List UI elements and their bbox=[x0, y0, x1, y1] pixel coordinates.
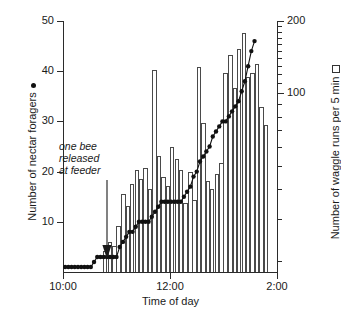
annotation-line-2: released bbox=[59, 152, 133, 164]
data-point-marker bbox=[89, 265, 93, 269]
annotation-line-3: at feeder bbox=[59, 164, 133, 176]
data-point-marker bbox=[217, 124, 221, 128]
data-point-marker bbox=[204, 149, 208, 153]
data-point-marker bbox=[179, 200, 183, 204]
y-axis-right-minor-tick bbox=[278, 26, 282, 27]
data-point-marker bbox=[211, 134, 215, 138]
y-axis-right-minor-tick bbox=[278, 117, 282, 118]
data-point-marker bbox=[243, 79, 247, 83]
data-point-marker bbox=[114, 255, 118, 259]
data-point-marker bbox=[195, 169, 199, 173]
y-axis-right-minor-tick bbox=[278, 32, 282, 33]
data-point-marker bbox=[246, 64, 250, 68]
data-point-marker bbox=[188, 184, 192, 188]
data-point-marker bbox=[230, 109, 234, 113]
x-axis-tick bbox=[63, 273, 64, 279]
data-point-marker bbox=[227, 114, 231, 118]
y-axis-right-title-text: Number of waggle runs per 5 min bbox=[329, 77, 341, 240]
y-axis-right-minor-tick bbox=[278, 74, 282, 75]
y-axis-right-title: Number of waggle runs per 5 min bbox=[329, 62, 341, 242]
y-axis-right-tick bbox=[278, 21, 284, 22]
data-point-marker bbox=[198, 159, 202, 163]
data-point-marker bbox=[236, 99, 240, 103]
y-axis-left-tick-label: 10 bbox=[42, 216, 54, 227]
data-point-marker bbox=[124, 235, 128, 239]
y-axis-right-tick-label: 100 bbox=[287, 87, 305, 98]
y-axis-right-minor-tick bbox=[278, 44, 282, 45]
y-axis-right-minor-tick bbox=[278, 38, 282, 39]
x-axis-tick-label: 10:00 bbox=[49, 281, 77, 292]
data-point-marker bbox=[185, 189, 189, 193]
x-axis-tick bbox=[277, 273, 278, 279]
y-axis-right-minor-tick bbox=[278, 51, 282, 52]
data-point-marker bbox=[130, 230, 134, 234]
y-axis-left-title: Number of nectar foragers bbox=[26, 62, 38, 242]
y-axis-right-minor-tick bbox=[278, 66, 282, 67]
data-point-marker bbox=[207, 144, 211, 148]
data-point-marker bbox=[201, 154, 205, 158]
y-axis-right-minor-tick bbox=[278, 130, 282, 131]
y-axis-right-minor-tick bbox=[278, 83, 282, 84]
x-axis-title: Time of day bbox=[63, 295, 278, 307]
y-axis-left-tick-label: 20 bbox=[42, 166, 54, 177]
data-point-marker bbox=[153, 210, 157, 214]
y-axis-right-minor-tick bbox=[278, 261, 282, 262]
annotation-one-bee-released: one bee released at feeder bbox=[59, 140, 133, 176]
annotation-line-1: one bee bbox=[59, 140, 133, 152]
data-point-marker bbox=[249, 49, 253, 53]
data-point-marker bbox=[252, 39, 256, 43]
y-axis-right-minor-tick bbox=[278, 166, 282, 167]
data-point-marker bbox=[182, 195, 186, 199]
y-axis-right-minor-tick bbox=[278, 104, 282, 105]
data-point-marker bbox=[239, 89, 243, 93]
x-axis-tick-label: 12:00 bbox=[156, 281, 184, 292]
data-point-marker bbox=[223, 119, 227, 123]
data-point-marker bbox=[134, 225, 138, 229]
y-axis-left-tick-label: 40 bbox=[42, 65, 54, 76]
open-square-marker-icon bbox=[332, 65, 340, 73]
y-axis-right-minor-tick bbox=[278, 147, 282, 148]
y-axis-left-tick-label: 50 bbox=[42, 15, 54, 26]
y-axis-right-minor-tick bbox=[278, 58, 282, 59]
x-axis-tick bbox=[170, 273, 171, 279]
y-axis-right-minor-tick bbox=[278, 219, 282, 220]
y-axis-right-tick-label: 200 bbox=[287, 15, 305, 26]
y-axis-left-title-text: Number of nectar foragers bbox=[26, 92, 38, 220]
y-axis-right-tick bbox=[278, 93, 284, 94]
data-point-marker bbox=[92, 260, 96, 264]
y-axis-right-minor-tick bbox=[278, 189, 282, 190]
data-point-marker bbox=[214, 129, 218, 133]
data-point-marker bbox=[118, 245, 122, 249]
data-point-marker bbox=[121, 240, 125, 244]
data-point-marker bbox=[233, 104, 237, 108]
data-point-marker bbox=[146, 220, 150, 224]
x-axis-tick-label: 2:00 bbox=[266, 281, 287, 292]
data-point-marker bbox=[150, 215, 154, 219]
annotation-arrow-down bbox=[100, 180, 114, 262]
filled-circle-marker-icon bbox=[31, 83, 36, 88]
data-point-marker bbox=[191, 174, 195, 178]
y-axis-left-tick-label: 30 bbox=[42, 115, 54, 126]
data-point-marker bbox=[156, 205, 160, 209]
